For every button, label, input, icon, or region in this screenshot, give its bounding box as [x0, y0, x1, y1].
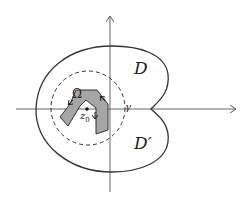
diagram-canvas: [0, 0, 246, 199]
label-gamma: γ: [125, 102, 131, 112]
label-region-D: D: [134, 60, 148, 77]
label-z-subscript: 0: [85, 116, 89, 124]
label-omega: Ω: [72, 88, 82, 100]
diagram-figure: D D′ Ω z0 γ: [0, 0, 246, 199]
label-region-D-prime: D′: [134, 135, 152, 152]
label-z0: z0: [80, 111, 90, 124]
